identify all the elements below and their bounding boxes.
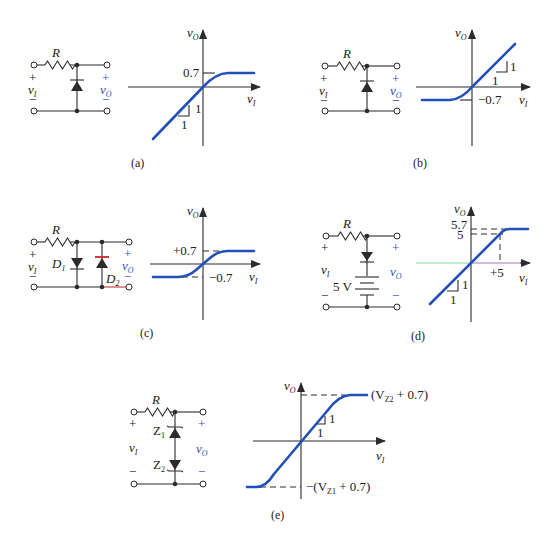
svg-text:vI: vI (321, 262, 330, 279)
svg-text:−: − (124, 269, 131, 284)
svg-text:+: + (198, 416, 205, 431)
transfer-curve (430, 229, 528, 304)
svg-text:−: − (29, 269, 36, 284)
svg-text:−0.7: −0.7 (209, 270, 233, 285)
svg-text:5: 5 (457, 227, 464, 242)
panel-b: R + vI − + vO − 1 1 −0.7 vO vI (b) (319, 25, 530, 170)
svg-text:−: − (198, 464, 205, 479)
svg-text:R: R (151, 392, 160, 407)
svg-text:1: 1 (329, 411, 336, 426)
svg-text:−: − (29, 92, 36, 107)
diode-reversed-icon (360, 81, 374, 92)
resistor-label: R (51, 45, 60, 60)
graph-e: 1 1 (VZ2 + 0.7) −(VZ1 + 0.7) vO vI (247, 378, 428, 499)
output-terminal-top (104, 62, 110, 68)
svg-text:1: 1 (317, 425, 324, 440)
svg-text:1: 1 (450, 292, 457, 307)
svg-text:−: − (392, 93, 399, 108)
svg-text:vO: vO (187, 203, 199, 220)
d2-label: D2 (105, 271, 119, 288)
caption-b: (b) (413, 156, 427, 170)
lower-limit-label: −(VZ1 + 0.7) (306, 479, 370, 496)
graph-a: 1 1 0.7 vO vI (128, 25, 260, 146)
svg-text:vO: vO (284, 378, 296, 395)
circuit-e: R + vI − Z1 Z2 + vO − (129, 392, 208, 487)
upper-limit-label: (VZ2 + 0.7) (371, 387, 428, 404)
x-axis-label: vI (247, 91, 256, 108)
svg-text:+0.7: +0.7 (173, 243, 197, 258)
svg-text:−0.7: −0.7 (478, 92, 502, 107)
svg-text:vI: vI (519, 92, 528, 109)
svg-text:+: + (129, 416, 136, 431)
limiter-circuits-figure: R + vI − + vO − 1 1 0.7 vO vI (a) (0, 0, 548, 536)
svg-text:−: − (392, 288, 399, 303)
svg-text:R: R (51, 222, 60, 237)
d1-label: D1 (51, 256, 65, 273)
svg-text:−: − (321, 288, 328, 303)
input-terminal-top (31, 62, 37, 68)
svg-text:1: 1 (195, 101, 202, 116)
svg-text:−: − (102, 92, 109, 107)
svg-text:vI: vI (376, 448, 385, 465)
battery-label: 5 V (333, 279, 353, 294)
circuit-c: R + vI − D1 D2 + vO − (28, 222, 134, 290)
battery-icon (355, 277, 379, 295)
svg-text:0.7: 0.7 (183, 65, 200, 80)
diode-icon (70, 80, 84, 91)
caption-c: (c) (140, 326, 153, 340)
graph-d: 1 1 5.7 5 +5 vO vI (416, 201, 530, 322)
circuit-b: R + vI − + vO − (319, 46, 402, 114)
svg-text:−: − (129, 464, 136, 479)
diode-icon (360, 252, 374, 262)
diode-d2-icon (95, 257, 109, 268)
panel-d: R + vI 5 V − + vO − 1 1 5.7 5 +5 vO vI (321, 201, 530, 343)
svg-text:1: 1 (510, 59, 517, 74)
svg-text:vO: vO (390, 264, 402, 281)
svg-text:vI: vI (249, 269, 258, 286)
svg-text:R: R (342, 46, 351, 61)
graph-c: +0.7 −0.7 vO vI (150, 203, 260, 320)
svg-text:1: 1 (181, 117, 188, 132)
svg-text:1: 1 (492, 73, 499, 88)
svg-text:vI: vI (519, 270, 528, 287)
svg-text:1: 1 (462, 277, 469, 292)
svg-text:+: + (392, 240, 399, 255)
panel-a: R + vI − + vO − 1 1 0.7 vO vI (a) (28, 25, 260, 170)
circuit-d: R + vI 5 V − + vO − (321, 216, 402, 310)
input-terminal-bottom (31, 108, 37, 114)
svg-text:vO: vO (454, 201, 466, 218)
svg-text:−: − (320, 93, 327, 108)
svg-text:+5: +5 (490, 265, 504, 280)
y-axis-label: vO (187, 25, 199, 42)
svg-text:vO: vO (196, 441, 208, 458)
diode-d1-icon (70, 258, 84, 269)
output-terminal-bottom (104, 108, 110, 114)
z1-label: Z1 (153, 423, 165, 440)
caption-e: (e) (271, 508, 284, 522)
caption-a: (a) (131, 156, 144, 170)
graph-b: 1 1 −0.7 vO vI (416, 25, 530, 146)
svg-text:R: R (342, 216, 351, 231)
circuit-a: R + vI − + vO − (28, 45, 112, 114)
svg-text:+: + (321, 240, 328, 255)
svg-text:vO: vO (455, 25, 467, 42)
caption-d: (d) (411, 329, 425, 343)
panel-c: R + vI − D1 D2 + vO − +0.7 −0.7 vO vI (c… (28, 203, 260, 340)
panel-e: R + vI − Z1 Z2 + vO − 1 1 (VZ2 + 0.7) −(… (129, 378, 428, 522)
z2-label: Z2 (153, 457, 165, 474)
svg-text:vI: vI (129, 440, 138, 457)
